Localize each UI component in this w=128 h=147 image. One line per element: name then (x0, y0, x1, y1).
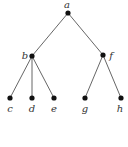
node-d (29, 95, 34, 100)
node-label-g: g (82, 103, 88, 114)
node-g (82, 95, 87, 100)
node-b (29, 53, 34, 58)
node-c (7, 95, 12, 100)
node-label-h: h (117, 103, 123, 114)
tree-labels: abfcdegh (7, 0, 123, 114)
node-label-c: c (7, 103, 13, 114)
node-e (51, 95, 56, 100)
node-f (100, 52, 105, 57)
edge-b-c (10, 56, 32, 98)
edge-f-h (103, 55, 121, 98)
edge-f-g (85, 55, 103, 98)
node-label-f: f (108, 50, 115, 61)
node-label-d: d (29, 103, 35, 114)
node-label-a: a (64, 0, 70, 10)
node-h (118, 95, 123, 100)
edge-a-f (68, 13, 103, 55)
node-label-e: e (51, 103, 57, 114)
node-a (65, 10, 70, 15)
edge-a-b (32, 13, 68, 56)
node-label-b: b (22, 50, 28, 61)
tree-diagram: abfcdegh (0, 0, 128, 147)
edge-b-e (32, 56, 54, 98)
